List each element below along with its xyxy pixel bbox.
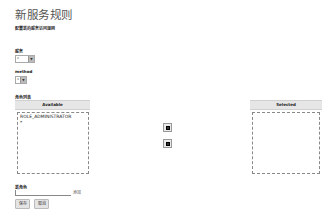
page-subtitle: 配置新的服务访问规则 bbox=[15, 25, 55, 31]
page-title: 新服务规则 bbox=[15, 6, 73, 22]
save-button[interactable]: 保存 bbox=[15, 199, 30, 209]
add-role-link[interactable]: 添加 bbox=[73, 189, 81, 195]
chevron-down-icon[interactable]: ▼ bbox=[20, 77, 26, 83]
method-select[interactable]: * ▼ bbox=[15, 76, 27, 84]
move-to-selected-button[interactable] bbox=[163, 123, 172, 132]
selected-roles-list[interactable] bbox=[252, 112, 320, 174]
available-header: Available bbox=[15, 100, 90, 110]
list-item[interactable]: * bbox=[18, 119, 88, 125]
service-select-value: * bbox=[16, 56, 28, 62]
service-label: 服务 bbox=[15, 48, 23, 54]
arrow-right-icon bbox=[166, 126, 170, 130]
service-select[interactable]: * ▼ bbox=[15, 55, 35, 63]
cancel-button[interactable]: 取消 bbox=[34, 199, 49, 209]
chevron-down-icon[interactable]: ▼ bbox=[28, 56, 34, 62]
available-roles-list[interactable]: ROLE_ADMINISTRATOR * bbox=[17, 112, 89, 174]
new-role-input[interactable] bbox=[15, 190, 71, 196]
selected-header: Selected bbox=[250, 100, 322, 110]
move-to-available-button[interactable] bbox=[163, 139, 172, 148]
method-label: method bbox=[15, 69, 32, 74]
arrow-left-icon bbox=[166, 142, 170, 146]
